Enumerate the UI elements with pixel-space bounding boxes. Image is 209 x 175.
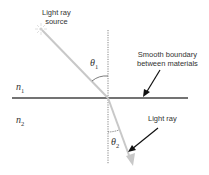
light-source-label-line2: source	[42, 17, 71, 26]
theta1-arc	[92, 76, 108, 81]
boundary-label-line2: between materials	[137, 59, 198, 68]
ray-arrowhead-icon	[126, 153, 135, 166]
theta2-arc	[108, 130, 119, 132]
ray-pointer-arrow-icon	[128, 128, 158, 152]
n2-symbol: n2	[16, 114, 24, 127]
refracted-ray	[108, 98, 130, 158]
refraction-diagram	[0, 0, 209, 175]
theta1-symbol: θ1	[90, 57, 98, 70]
boundary-pointer-arrow-icon	[143, 70, 160, 97]
boundary-label-line1: Smooth boundary	[137, 50, 198, 59]
theta1-sub: 1	[95, 63, 98, 70]
light-source-label-line1: Light ray	[42, 8, 71, 17]
n2-sub: 2	[21, 120, 24, 127]
light-source-label: Light ray source	[42, 8, 71, 26]
light-ray-label: Light ray	[148, 114, 177, 123]
n1-symbol: n1	[16, 81, 24, 94]
boundary-label: Smooth boundary between materials	[137, 50, 198, 68]
n1-sub: 1	[21, 87, 24, 94]
theta2-symbol: θ2	[111, 136, 119, 149]
theta2-sub: 2	[116, 142, 119, 149]
